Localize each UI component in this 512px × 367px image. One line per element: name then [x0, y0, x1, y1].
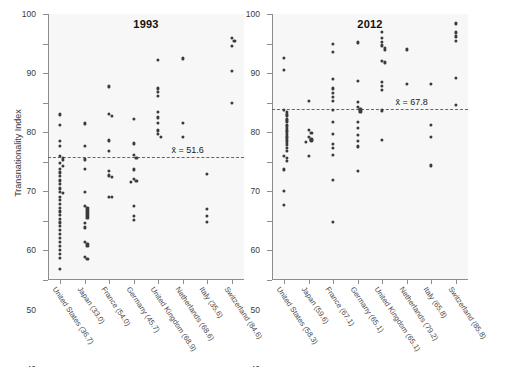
panel-title: 2012 — [272, 18, 468, 30]
plot-background — [48, 14, 244, 280]
y-tick-label: 70 — [251, 186, 260, 196]
y-tick: 10 — [267, 280, 272, 281]
y-tick: 20 — [267, 250, 272, 251]
y-tick-label: 100 — [246, 9, 260, 19]
y-tick-label: 40 — [27, 364, 36, 367]
y-tick: 30 — [267, 221, 272, 222]
x-tick — [333, 280, 334, 284]
y-tick: 80 — [267, 73, 272, 74]
x-tick-label: Italy (35.6) — [198, 285, 226, 320]
panel-title: 1993 — [48, 18, 244, 30]
y-tick: 100 — [267, 14, 272, 15]
y-tick-label: 100 — [22, 9, 36, 19]
y-tick: 60 — [267, 132, 272, 133]
x-tick — [60, 280, 61, 284]
x-tick — [183, 280, 184, 284]
plot-background — [272, 14, 468, 280]
y-tick: 30 — [43, 221, 48, 222]
y-axis-line — [272, 14, 273, 280]
x-tick-label: Italy (65.8) — [422, 285, 450, 320]
y-tick-label: 60 — [27, 245, 36, 255]
y-tick: 100 — [43, 14, 48, 15]
y-tick: 50 — [267, 162, 272, 163]
x-tick — [431, 280, 432, 284]
x-tick-label: United Kingdom (68.9) — [149, 285, 199, 353]
figure-container: Transnationality Index 19931020304050607… — [0, 0, 512, 367]
y-tick: 20 — [43, 250, 48, 251]
x-tick — [284, 280, 285, 284]
y-tick-label: 60 — [251, 245, 260, 255]
mean-line — [272, 109, 468, 110]
y-tick: 60 — [43, 132, 48, 133]
y-axis-title: Transnationality Index — [13, 73, 23, 233]
mean-line — [48, 157, 244, 158]
y-tick: 40 — [43, 191, 48, 192]
x-axis-line — [272, 279, 468, 280]
y-tick: 70 — [43, 103, 48, 104]
x-tick — [309, 280, 310, 284]
y-tick-label: 80 — [27, 127, 36, 137]
y-tick: 40 — [267, 191, 272, 192]
x-tick — [407, 280, 408, 284]
y-tick-label: 50 — [251, 305, 260, 315]
x-tick — [358, 280, 359, 284]
x-tick — [158, 280, 159, 284]
x-tick — [382, 280, 383, 284]
y-tick-label: 70 — [27, 186, 36, 196]
x-tick-label: Switzerland (85.8) — [446, 285, 488, 341]
mean-label: x̄ = 67.8 — [395, 97, 427, 109]
y-tick: 90 — [267, 44, 272, 45]
mean-label: x̄ = 51.6 — [171, 145, 203, 157]
x-tick-label: United Kingdom (65.1) — [373, 285, 423, 353]
x-axis-line — [48, 279, 244, 280]
y-tick-label: 90 — [251, 68, 260, 78]
x-tick — [456, 280, 457, 284]
x-tick — [232, 280, 233, 284]
x-tick — [207, 280, 208, 284]
panel-2012: 2012102030405060708090100x̄ = 67.8United… — [272, 14, 468, 280]
x-tick — [109, 280, 110, 284]
y-tick: 70 — [267, 103, 272, 104]
y-tick: 80 — [43, 73, 48, 74]
panel-1993: 1993102030405060708090100x̄ = 51.6United… — [48, 14, 244, 280]
y-axis-line — [48, 14, 49, 280]
y-tick-label: 90 — [27, 68, 36, 78]
y-tick-label: 80 — [251, 127, 260, 137]
y-tick: 50 — [43, 162, 48, 163]
x-tick — [85, 280, 86, 284]
y-tick-label: 50 — [27, 305, 36, 315]
y-tick-label: 40 — [251, 364, 260, 367]
y-tick: 10 — [43, 280, 48, 281]
y-tick: 90 — [43, 44, 48, 45]
x-tick — [134, 280, 135, 284]
